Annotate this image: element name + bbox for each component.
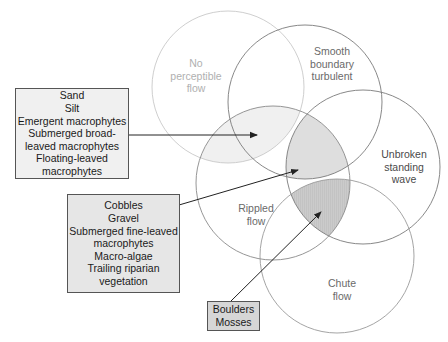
arrow-cobbles-gravel [179, 170, 298, 205]
box-sand-silt: Sand Silt Emergent macrophytes Submerged… [15, 88, 129, 179]
label-no-perceptible-flow: No perceptible flow [170, 57, 221, 95]
label-chute-flow: Chute flow [328, 277, 356, 302]
box-boulders-mosses: Boulders Mosses [207, 301, 260, 331]
label-rippled-flow: Rippled flow [238, 202, 274, 227]
box-sand-silt-text: Sand Silt Emergent macrophytes Submerged… [18, 89, 127, 177]
label-smooth-boundary-turbulent: Smooth boundary turbulent [310, 45, 354, 83]
label-unbroken-standing-wave: Unbroken standing wave [381, 148, 427, 186]
box-boulders-mosses-text: Boulders Mosses [213, 303, 254, 328]
region-rippled-unbroken-chute [260, 179, 414, 333]
box-cobbles-gravel-text: Cobbles Gravel Submerged fine-leaved mac… [69, 199, 178, 287]
box-cobbles-gravel: Cobbles Gravel Submerged fine-leaved mac… [67, 194, 180, 293]
